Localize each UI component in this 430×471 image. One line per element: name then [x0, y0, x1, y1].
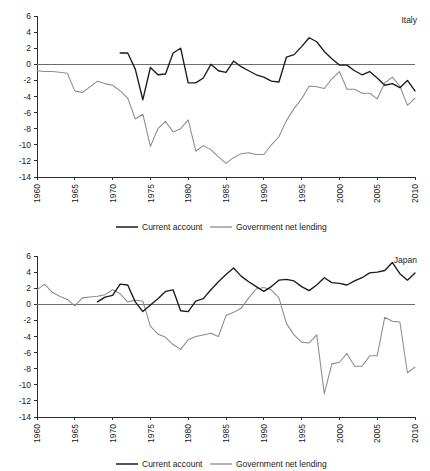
y-tick-label: 0: [26, 299, 31, 309]
x-tick-label: 1965: [70, 184, 80, 203]
x-tick-label: 1995: [297, 184, 307, 203]
x-tick-label: 1985: [221, 424, 231, 443]
y-tick-label: -14: [19, 412, 32, 422]
x-tick-label: 1970: [108, 184, 118, 203]
legend-label-government-net-lending: Government net lending: [236, 222, 327, 232]
x-tick-label: 1975: [146, 184, 156, 203]
x-tick-label: 1965: [70, 424, 80, 443]
y-tick-label: 2: [26, 43, 31, 53]
x-tick-label: 1985: [221, 184, 231, 203]
chart-panel-japan: 6420-2-4-6-8-10-12-141960196519701975198…: [0, 238, 430, 471]
x-tick-label: 1970: [108, 424, 118, 443]
japan-chart-svg: 6420-2-4-6-8-10-12-141960196519701975198…: [0, 238, 430, 471]
y-tick-label: -6: [23, 108, 31, 118]
x-tick-label: 1960: [32, 184, 42, 203]
x-tick-label: 1990: [259, 184, 269, 203]
y-tick-label: -4: [23, 92, 31, 102]
x-tick-label: 2010: [410, 184, 420, 203]
series-line-current-account: [120, 38, 415, 100]
x-tick-label: 1995: [297, 424, 307, 443]
y-tick-label: 4: [26, 27, 31, 37]
figure-page: 6420-2-4-6-8-10-12-141960196519701975198…: [0, 0, 430, 471]
series-line-government-net-lending: [37, 284, 415, 393]
y-tick-label: -4: [23, 332, 31, 342]
y-tick-label: -6: [23, 348, 31, 358]
x-tick-label: 2000: [335, 184, 345, 203]
x-tick-label: 2005: [372, 184, 382, 203]
x-tick-label: 1980: [183, 184, 193, 203]
legend-label-current-account: Current account: [142, 222, 203, 232]
y-tick-label: -8: [23, 364, 31, 374]
x-tick-label: 1990: [259, 424, 269, 443]
x-tick-label: 1980: [183, 424, 193, 443]
y-tick-label: -8: [23, 124, 31, 134]
y-tick-label: 0: [26, 59, 31, 69]
y-tick-label: -14: [19, 172, 32, 182]
legend-label-government-net-lending: Government net lending: [236, 459, 327, 469]
y-tick-label: 6: [26, 11, 31, 21]
series-line-government-net-lending: [37, 71, 415, 164]
y-tick-label: -12: [19, 156, 32, 166]
country-label: Italy: [401, 15, 417, 25]
y-tick-label: -10: [19, 140, 32, 150]
italy-chart-svg: 6420-2-4-6-8-10-12-141960196519701975198…: [0, 0, 430, 240]
chart-panel-italy: 6420-2-4-6-8-10-12-141960196519701975198…: [0, 0, 430, 240]
x-tick-label: 1975: [146, 424, 156, 443]
x-tick-label: 2000: [335, 424, 345, 443]
country-label: Japan: [394, 255, 417, 265]
x-tick-label: 2010: [410, 424, 420, 443]
y-tick-label: -12: [19, 396, 32, 406]
y-tick-label: -10: [19, 380, 32, 390]
x-tick-label: 2005: [372, 424, 382, 443]
y-tick-label: -2: [23, 75, 31, 85]
x-tick-label: 1960: [32, 424, 42, 443]
y-tick-label: 6: [26, 251, 31, 261]
y-tick-label: 2: [26, 283, 31, 293]
y-tick-label: -2: [23, 315, 31, 325]
y-tick-label: 4: [26, 267, 31, 277]
legend-label-current-account: Current account: [142, 459, 203, 469]
